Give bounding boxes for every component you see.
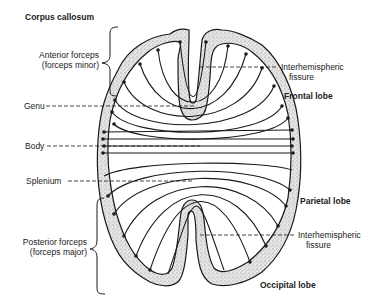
fiber-terminal-dot	[156, 48, 160, 52]
fiber-terminal-dot	[276, 224, 280, 228]
cortex-band	[97, 29, 300, 286]
fissure-bottom-line2: fissure	[298, 240, 361, 250]
fiber-terminal-dot	[280, 104, 284, 108]
anterior-forceps-line2: (forceps minor)	[22, 60, 99, 70]
fiber-terminal-dot	[101, 151, 105, 155]
fiber-terminal-dot	[138, 62, 142, 66]
fiber-terminal-dot	[291, 137, 295, 141]
fiber-terminal-dot	[122, 80, 126, 84]
leader-lines	[46, 67, 294, 235]
genu-label: Genu	[24, 101, 45, 111]
posterior-forceps-line2: (forceps major)	[8, 247, 87, 257]
fiber-terminal-dot	[290, 144, 294, 148]
fiber-terminal-dot	[148, 268, 152, 272]
splenium-label: Splenium	[26, 176, 61, 186]
fiber-terminal-dot	[226, 44, 230, 48]
fissure-top-line1: Interhemispheric	[281, 62, 344, 72]
fiber-terminal-dot	[122, 234, 126, 238]
body-label: Body	[25, 141, 44, 151]
fiber-terminal-dot	[204, 40, 208, 44]
frontal-lobe-label: Frontal lobe	[284, 91, 333, 101]
fiber-terminal-dot	[110, 110, 114, 114]
fiber-terminal-dot	[106, 194, 110, 198]
posterior-fiber	[104, 163, 292, 176]
posterior-forceps-line1: Posterior forceps	[8, 237, 87, 247]
fiber-terminal-dot	[290, 128, 294, 132]
brain-outline	[97, 29, 300, 286]
fiber-terminal-dot	[286, 116, 290, 120]
fiber-terminal-dot	[288, 188, 292, 192]
anterior-forceps-label: Anterior forceps (forceps minor)	[22, 50, 99, 70]
fiber-terminal-dot	[272, 84, 276, 88]
fiber-terminal-dot	[112, 212, 116, 216]
occipital-lobe-label: Occipital lobe	[260, 280, 316, 290]
fissure-bottom-line1: Interhemispheric	[298, 230, 361, 240]
fissure-top-line2: fissure	[281, 72, 344, 82]
posterior-forceps-label: Posterior forceps (forceps major)	[8, 237, 87, 257]
anterior-forceps-line1: Anterior forceps	[22, 50, 99, 60]
fissure-top-label: Interhemispheric fissure	[281, 62, 344, 82]
anterior-fiber	[158, 46, 228, 102]
fiber-terminal-dot	[178, 40, 182, 44]
fiber-terminal-dot	[112, 122, 116, 126]
fiber-terminal-dot	[244, 52, 248, 56]
anterior-fiber	[140, 54, 246, 109]
fiber-terminal-dot	[113, 98, 117, 102]
corpus-callosum-diagram	[0, 0, 381, 305]
fiber-terminal-dot	[101, 137, 105, 141]
fissure-bottom-label: Interhemispheric fissure	[298, 230, 361, 250]
parietal-lobe-label: Parietal lobe	[300, 196, 351, 206]
fiber-terminal-dot	[264, 244, 268, 248]
fiber-terminal-dot	[248, 260, 252, 264]
posterior-fiber	[108, 171, 290, 196]
fiber-terminal-dot	[291, 151, 295, 155]
fiber-terminal-dot	[134, 254, 138, 258]
diagram-title: Corpus callosum	[25, 12, 94, 22]
fiber-terminal-dot	[102, 130, 106, 134]
fiber-terminal-dot	[284, 204, 288, 208]
